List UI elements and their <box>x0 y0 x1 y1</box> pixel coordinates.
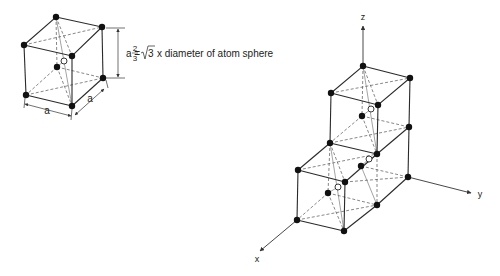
y-axis <box>408 177 471 193</box>
depth-label: a <box>87 93 93 104</box>
unit-cell: a a a = 2 3 3 x diameter of atom sphere <box>21 14 274 120</box>
interstitial-site <box>335 184 341 190</box>
lattice-structure: z y x <box>255 12 483 264</box>
atom <box>100 75 106 81</box>
atom <box>325 190 331 196</box>
crystal-structure-diagram: a a a = 2 3 3 x diameter of atom sphere … <box>0 0 500 276</box>
fraction-denominator: 3 <box>133 54 138 63</box>
formula-rhs: x diameter of atom sphere <box>157 48 274 59</box>
unit-cell-atoms <box>21 14 106 109</box>
atom <box>21 42 27 48</box>
atom <box>327 140 333 146</box>
interstitial-site <box>61 58 67 64</box>
interstitial-site <box>368 106 374 112</box>
atom <box>405 174 411 180</box>
atom <box>294 217 300 223</box>
atom <box>360 63 366 69</box>
height-dimension <box>106 28 125 78</box>
z-axis-label: z <box>361 12 366 22</box>
atom <box>295 167 301 173</box>
atom <box>375 102 381 108</box>
atom <box>359 113 365 119</box>
atom <box>358 163 364 169</box>
lattice-edges <box>297 66 410 231</box>
atom <box>69 103 75 109</box>
axes: z y x <box>255 12 483 264</box>
atom <box>341 228 347 234</box>
atom <box>54 64 60 70</box>
radical-value: 3 <box>148 48 154 59</box>
atom <box>69 53 75 59</box>
atom <box>99 24 105 30</box>
atom <box>374 151 380 157</box>
atom <box>406 124 412 130</box>
atom <box>342 179 348 185</box>
atom <box>23 92 29 98</box>
width-label: a <box>44 105 50 116</box>
y-axis-label: y <box>478 189 483 199</box>
x-axis <box>260 220 297 251</box>
atom <box>53 14 59 20</box>
fraction-numerator: 2 <box>133 44 138 53</box>
interstitial-site <box>366 156 372 162</box>
x-axis-label: x <box>255 254 260 264</box>
lattice-constant-formula: a = 2 3 3 x diameter of atom sphere <box>126 44 274 63</box>
atom <box>374 202 380 208</box>
atom <box>328 90 334 96</box>
atom <box>407 75 413 81</box>
